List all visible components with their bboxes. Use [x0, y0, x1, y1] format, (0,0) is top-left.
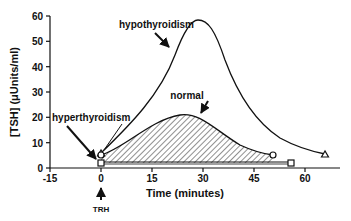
- y-axis-title: [TSH] (μUnits/ml): [8, 47, 20, 137]
- trh-label: TRH: [93, 205, 110, 214]
- y-tick-labels: 60 50 40 30 20 10 0: [32, 11, 44, 174]
- y-tick-10: 10: [32, 138, 44, 149]
- square-marker-start: [98, 160, 104, 166]
- normal-label: normal: [170, 90, 204, 101]
- hypothyroidism-label: hypothyroidism: [119, 19, 194, 30]
- circle-marker-end: [270, 152, 276, 158]
- hypothyroidism-arrow: [155, 33, 169, 47]
- y-tick-30: 30: [32, 87, 44, 98]
- x-tick-45: 45: [248, 173, 260, 184]
- x-tick--15: -15: [43, 173, 58, 184]
- x-tick-60: 60: [299, 173, 311, 184]
- x-tick-labels: -15 0 15 30 45 60: [43, 173, 311, 184]
- tsh-chart: 60 50 40 30 20 10 0 -15 0 15 30 45 60 Ti…: [0, 0, 351, 221]
- square-marker-end: [288, 160, 294, 166]
- x-tick-30: 30: [197, 173, 209, 184]
- x-tick-0: 0: [98, 173, 104, 184]
- circle-marker-start: [98, 152, 104, 158]
- y-tick-20: 20: [32, 112, 44, 123]
- y-tick-60: 60: [32, 11, 44, 22]
- hyperthyroidism-arrow: [67, 126, 96, 159]
- x-axis-title: Time (minutes): [146, 187, 224, 199]
- normal-arrow: [201, 101, 208, 113]
- y-tick-50: 50: [32, 36, 44, 47]
- hyperthyroidism-label: hyperthyroidism: [52, 112, 130, 123]
- x-tick-15: 15: [146, 173, 158, 184]
- y-tick-40: 40: [32, 62, 44, 73]
